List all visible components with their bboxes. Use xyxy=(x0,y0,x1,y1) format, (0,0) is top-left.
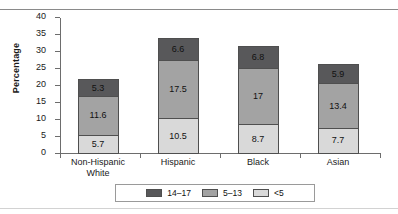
legend-item-5-13: 5–13 xyxy=(202,188,242,198)
bar-segment-non-hispanic-white-14-17: 5.3 xyxy=(78,79,119,97)
y-tick-label-0: 0 xyxy=(0,148,46,157)
y-tick-label-5: 5 xyxy=(0,131,46,140)
legend-item-14-17: 14–17 xyxy=(146,188,191,198)
bar-value-label: 6.6 xyxy=(172,44,185,54)
bottom-divider xyxy=(0,208,398,209)
bar-segment-black-14-17: 6.8 xyxy=(238,46,279,69)
bar-segment-non-hispanic-white-under-5: 5.7 xyxy=(78,135,119,154)
y-tick-label-35: 35 xyxy=(0,29,46,38)
bar-segment-black-5-13: 17 xyxy=(238,68,279,126)
chart-figure: Percentage 0510152025303540 5.311.65.76.… xyxy=(0,0,398,214)
bar-segment-hispanic-14-17: 6.6 xyxy=(158,38,199,60)
bar-value-label: 6.8 xyxy=(252,52,265,62)
category-label-3: Asian xyxy=(283,157,393,168)
bar-value-label: 13.4 xyxy=(329,101,347,111)
bar-segment-hispanic-5-13: 17.5 xyxy=(158,60,199,120)
bar-segment-hispanic-under-5: 10.5 xyxy=(158,118,199,154)
category-label-line1: Asian xyxy=(283,157,393,168)
legend-swatch-14-17 xyxy=(146,189,162,197)
legend-swatch-under-5 xyxy=(253,189,269,197)
bar-segment-asian-14-17: 5.9 xyxy=(318,64,359,84)
legend: 14–17 5–13 <5 xyxy=(115,184,315,202)
y-tick-label-40: 40 xyxy=(0,12,46,21)
bar-value-label: 17 xyxy=(253,91,263,101)
bar-segment-non-hispanic-white-5-13: 11.6 xyxy=(78,96,119,135)
legend-label-5-13: 5–13 xyxy=(223,188,242,198)
bar-value-label: 10.5 xyxy=(169,131,187,141)
legend-swatch-5-13 xyxy=(202,189,218,197)
bar-value-label: 8.7 xyxy=(252,134,265,144)
bar-segment-asian-5-13: 13.4 xyxy=(318,83,359,129)
y-tick-label-25: 25 xyxy=(0,63,46,72)
legend-label-under-5: <5 xyxy=(274,188,284,198)
y-tick-label-10: 10 xyxy=(0,114,46,123)
bar-non-hispanic-white: 5.311.65.7 xyxy=(78,79,119,154)
bar-hispanic: 6.617.510.5 xyxy=(158,38,199,154)
bar-value-label: 5.3 xyxy=(92,83,105,93)
y-tick-label-30: 30 xyxy=(0,46,46,55)
plot-area: 5.311.65.76.617.510.56.8178.75.913.47.7 xyxy=(60,18,380,154)
title-divider xyxy=(0,9,398,10)
bar-value-label: 7.7 xyxy=(332,135,345,145)
bar-value-label: 11.6 xyxy=(90,110,107,120)
legend-label-14-17: 14–17 xyxy=(167,188,191,198)
bar-value-label: 17.5 xyxy=(169,84,187,94)
category-label-line2: White xyxy=(43,168,153,179)
y-tick-label-20: 20 xyxy=(0,80,46,89)
y-tick-label-15: 15 xyxy=(0,97,46,106)
bar-value-label: 5.9 xyxy=(332,69,345,79)
bar-asian: 5.913.47.7 xyxy=(318,64,359,154)
bar-black: 6.8178.7 xyxy=(238,46,279,154)
cut-off-title-strip xyxy=(0,0,398,9)
bar-value-label: 5.7 xyxy=(92,139,105,149)
legend-item-under-5: <5 xyxy=(253,188,284,198)
bar-segment-black-under-5: 8.7 xyxy=(238,124,279,154)
bar-segment-asian-under-5: 7.7 xyxy=(318,128,359,154)
